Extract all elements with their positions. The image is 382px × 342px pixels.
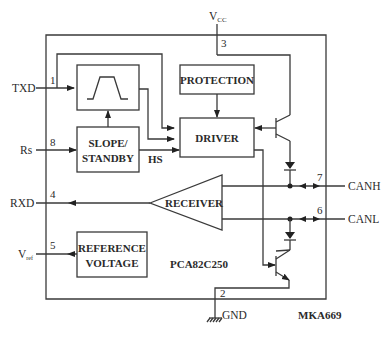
- filter-block: [77, 65, 139, 110]
- pin-5-number: 5: [50, 239, 56, 251]
- gnd-label: GND: [222, 309, 247, 321]
- part-number-label: PCA82C250: [170, 258, 229, 270]
- protection-label: PROTECTION: [180, 74, 254, 86]
- slope-label-line2: STANDBY: [82, 152, 134, 164]
- rxd-pin: RXD 4: [10, 188, 150, 209]
- pin-1-number: 1: [50, 74, 56, 86]
- pin-4-number: 4: [50, 188, 56, 200]
- canh-label: CANH: [348, 180, 381, 192]
- pin-7-number: 7: [317, 171, 323, 183]
- rxd-label: RXD: [10, 197, 34, 209]
- reference-label-line2: VOLTAGE: [86, 257, 139, 269]
- vref-label: Vref: [18, 248, 33, 261]
- txd-label: TXD: [12, 82, 36, 94]
- gnd-pin: 2 GND: [207, 287, 247, 322]
- pin-3-number: 3: [221, 37, 227, 49]
- pca82c250-block-diagram: VCC 3 TXD 1 PROTECTION DRIVER SLOPE/ STA…: [0, 0, 382, 342]
- rs-pin: Rs 8: [20, 136, 76, 156]
- receiver-label: RECEIVER: [165, 197, 224, 209]
- vref-pin: Vref 5: [18, 239, 77, 261]
- canl-pin: 6 CANL: [222, 204, 379, 225]
- canh-pin: 7 CANH: [222, 171, 381, 192]
- pin-2-number: 2: [220, 287, 226, 299]
- slope-label-line1: SLOPE/: [88, 137, 128, 149]
- driver-label: DRIVER: [195, 132, 239, 144]
- reference-label-line1: REFERENCE: [78, 242, 146, 254]
- pin-8-number: 8: [50, 136, 56, 148]
- figure-code-label: MKA669: [298, 309, 342, 321]
- low-side-transistor: [215, 150, 296, 318]
- reference-voltage-block: [77, 232, 147, 277]
- slope-standby-block: [77, 127, 139, 172]
- rs-label: Rs: [20, 144, 33, 156]
- vcc-pin: VCC 3: [209, 10, 290, 115]
- vcc-label: VCC: [209, 10, 227, 24]
- canl-label: CANL: [348, 213, 379, 225]
- hs-signal-label: HS: [148, 153, 163, 165]
- pin-6-number: 6: [317, 204, 323, 216]
